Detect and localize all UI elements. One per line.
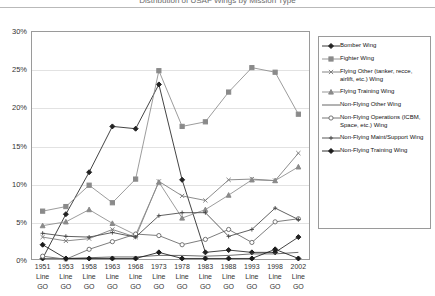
data-point-marker <box>180 256 185 261</box>
data-point-marker <box>87 207 92 212</box>
legend-item-4[interactable]: Non-Flying Other Wing <box>322 101 427 109</box>
legend-item-label: Non-Flying Other Wing <box>340 101 427 109</box>
legend-item-label: Non-Flying Maint/Support Wing <box>340 134 427 142</box>
legend-item-3[interactable]: Flying Training Wing <box>322 88 427 96</box>
series-7 <box>40 242 301 261</box>
data-point-marker <box>87 183 91 187</box>
data-point-marker <box>63 212 68 217</box>
data-point-marker <box>40 223 45 228</box>
legend-item-7[interactable]: Non-Flying Training Wing <box>322 147 427 155</box>
x-axis-tick-label: 1993LineGO <box>244 262 260 292</box>
data-point-marker <box>250 66 254 70</box>
data-point-marker <box>296 164 301 169</box>
data-point-marker <box>41 231 45 235</box>
legend-item-label: Bomber Wing <box>340 42 427 50</box>
legend-marker-icon <box>322 147 340 155</box>
series-line <box>43 153 299 241</box>
data-point-marker <box>296 112 300 116</box>
x-axis-tick-label: 1953LineGO <box>58 262 74 292</box>
legend-item-0[interactable]: Bomber Wing <box>322 42 427 50</box>
data-point-marker <box>226 256 231 261</box>
series-1 <box>41 66 301 214</box>
data-point-marker <box>180 211 184 215</box>
legend-marker-icon <box>322 114 340 122</box>
data-point-marker <box>180 124 184 128</box>
data-point-marker <box>329 136 333 140</box>
legend-marker-icon <box>322 101 340 109</box>
legend-item-label: Fighter Wing <box>340 55 427 63</box>
data-point-marker <box>156 250 161 255</box>
data-point-marker <box>41 254 45 258</box>
legend: Bomber WingFighter WingFlying Other (tan… <box>318 36 431 229</box>
data-point-marker <box>180 216 185 221</box>
data-point-marker <box>249 256 254 261</box>
legend-item-5[interactable]: Non-Flying Operations (ICBM, Space, etc.… <box>322 114 427 129</box>
page-title: Distribution of USAF Wings by Mission Ty… <box>0 0 435 6</box>
y-axis-tick-label: 20% <box>12 103 27 112</box>
data-point-marker <box>273 70 277 74</box>
data-point-marker <box>203 256 208 261</box>
legend-marker-icon <box>322 68 340 76</box>
data-point-marker <box>110 240 114 244</box>
data-point-marker <box>110 201 114 205</box>
y-axis-tick-label: 5% <box>16 217 27 226</box>
y-axis-tick-label: 10% <box>12 179 27 188</box>
data-point-marker <box>329 116 333 120</box>
data-point-marker <box>329 149 334 154</box>
data-point-marker <box>203 120 207 124</box>
series-line <box>43 208 299 237</box>
legend-item-2[interactable]: Flying Other (tanker, recce, airlift, et… <box>322 68 427 83</box>
series-line <box>43 68 299 212</box>
data-point-marker <box>64 234 68 238</box>
x-axis-tick-label: 1951LineGO <box>35 262 51 292</box>
data-point-marker <box>227 90 231 94</box>
series-line <box>43 167 299 235</box>
data-point-marker <box>296 256 301 261</box>
data-point-marker <box>110 221 115 226</box>
y-axis-tick-label: 0% <box>16 256 27 265</box>
legend-marker-icon <box>322 134 340 142</box>
legend-item-6[interactable]: Non-Flying Maint/Support Wing <box>322 134 427 142</box>
data-point-marker <box>180 177 185 182</box>
x-axis-tick-label: 1968LineGO <box>128 262 144 292</box>
x-axis-tick-label: 1978LineGO <box>174 262 190 292</box>
series-3 <box>40 164 301 237</box>
data-point-marker <box>329 90 334 95</box>
data-point-marker <box>64 204 68 208</box>
data-point-marker <box>87 256 92 261</box>
legend-item-1[interactable]: Fighter Wing <box>322 55 427 63</box>
data-point-marker <box>227 227 231 231</box>
top-divider <box>0 7 435 8</box>
x-axis-tick-label: 1958LineGO <box>81 262 97 292</box>
data-point-marker <box>133 126 138 131</box>
data-point-marker <box>250 240 254 244</box>
y-axis-tick-label: 15% <box>12 141 27 150</box>
legend-marker-icon <box>322 88 340 96</box>
data-point-marker <box>110 124 115 129</box>
legend-item-label: Flying Training Wing <box>340 88 427 96</box>
data-point-marker <box>203 250 208 255</box>
data-point-marker <box>296 151 300 155</box>
series-layer <box>31 31 310 260</box>
data-point-marker <box>63 219 68 224</box>
x-axis-tick-label: 1973LineGO <box>151 262 167 292</box>
x-axis-tick-label: 2002LineGO <box>291 262 307 292</box>
legend-item-label: Flying Other (tanker, recce, airlift, et… <box>340 68 427 83</box>
x-axis-tick-label: 1983LineGO <box>198 262 214 292</box>
data-point-marker <box>296 235 301 240</box>
data-point-marker <box>226 193 231 198</box>
data-point-marker <box>87 170 92 175</box>
data-point-marker <box>203 237 207 241</box>
data-point-marker <box>273 220 277 224</box>
y-axis-tick-label: 30% <box>12 27 27 36</box>
x-axis-tick-label: 1998LineGO <box>267 262 283 292</box>
series-line <box>43 84 299 258</box>
data-point-marker <box>157 69 161 73</box>
data-point-marker <box>40 242 45 247</box>
series-line <box>43 245 299 259</box>
legend-item-label: Non-Flying Operations (ICBM, Space, etc.… <box>340 114 427 129</box>
x-axis-tick-label: 1988LineGO <box>221 262 237 292</box>
series-2 <box>41 151 301 243</box>
legend-marker-icon <box>322 42 340 50</box>
data-point-marker <box>87 247 91 251</box>
